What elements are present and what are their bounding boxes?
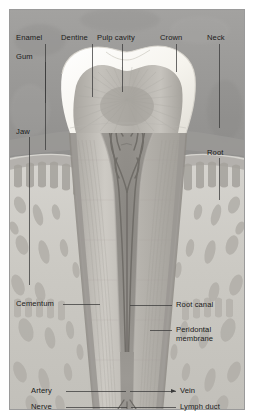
label-peridontal-membrane: Peridontal membrane [176,325,242,343]
label-artery: Artery [31,386,52,395]
label-nerve: Nerve [31,402,52,411]
diagram-stage: Enamel Dentine Pulp cavity Crown Neck Gu… [0,0,254,419]
label-enamel: Enamel [16,33,42,42]
label-jaw: Jaw [16,127,30,136]
tooth-anatomy-figure: Enamel Dentine Pulp cavity Crown Neck Gu… [0,0,254,419]
label-cementum: Cementum [16,299,54,308]
label-crown: Crown [160,33,182,42]
label-gum: Gum [16,52,33,61]
label-neck: Neck [207,33,225,42]
label-dentine: Dentine [61,33,88,42]
label-vein: Vein [180,386,195,395]
label-root-canal: Root canal [176,300,213,309]
label-pulp-cavity: Pulp cavity [97,33,135,42]
label-lymph-duct: Lymph duct [180,402,220,411]
tooth-cross-section-illustration [0,0,254,419]
label-root: Root [207,148,223,157]
illustration-body [7,8,246,419]
